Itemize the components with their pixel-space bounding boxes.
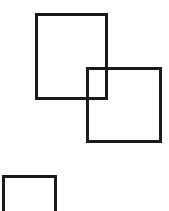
rect-3-rectangle: [2, 175, 57, 211]
rect-2-rectangle: [86, 67, 162, 143]
